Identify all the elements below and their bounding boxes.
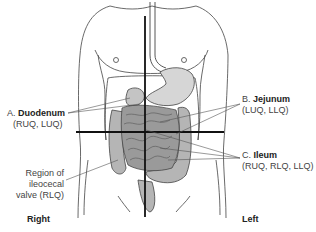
label-ileum-name: Ileum	[254, 150, 278, 160]
side-label-left: Left	[242, 214, 259, 224]
label-region-line2: ileocecal	[12, 179, 64, 190]
label-jejunum-prefix: B.	[242, 94, 251, 104]
label-ileum: C. Ileum (RUQ, RLQ, LLQ)	[242, 150, 314, 172]
label-ileocecal-region: Region of ileocecal valve (RLQ)	[12, 168, 64, 201]
label-jejunum-name: Jejunum	[253, 94, 290, 104]
label-duodenum-quadrants: (RUQ, LUQ)	[7, 119, 65, 130]
esophagus	[150, 2, 166, 72]
duodenum	[126, 88, 144, 106]
label-region-line1: Region of	[12, 168, 64, 179]
label-duodenum-prefix: A.	[7, 108, 16, 118]
label-region-line3: valve (RLQ)	[12, 190, 64, 201]
label-ileum-prefix: C.	[242, 150, 251, 160]
small-intestine	[121, 105, 179, 170]
label-duodenum: A. Duodenum (RUQ, LUQ)	[7, 108, 65, 130]
label-jejunum-quadrants: (LUQ, LLQ)	[242, 105, 290, 116]
label-duodenum-name: Duodenum	[18, 108, 65, 118]
label-ileum-quadrants: (RUQ, RLQ, LLQ)	[242, 161, 314, 172]
label-jejunum: B. Jejunum (LUQ, LLQ)	[242, 94, 290, 116]
side-label-right: Right	[27, 214, 50, 224]
